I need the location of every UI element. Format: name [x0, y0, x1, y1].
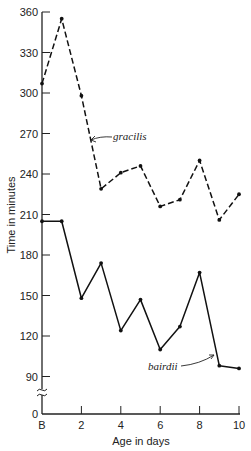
x-tick-label: 2 — [78, 419, 84, 431]
data-point — [158, 348, 162, 352]
data-point — [178, 325, 182, 329]
axes — [37, 12, 240, 414]
y-tick-label: 270 — [20, 128, 38, 140]
data-point — [119, 329, 123, 333]
data-point — [237, 192, 241, 196]
data-point — [139, 298, 143, 302]
y-axis-label: Time in minutes — [5, 176, 17, 254]
data-point — [119, 171, 123, 175]
y-tick-label: 300 — [20, 87, 38, 99]
tick-labels: 090120150180210240270300330360B246810 — [20, 6, 245, 431]
data-point — [80, 296, 84, 300]
y-tick-label: 240 — [20, 168, 38, 180]
x-tick-label: 10 — [233, 419, 245, 431]
data-point — [237, 367, 241, 371]
y-tick-label: 90 — [26, 371, 38, 383]
x-tick-label: B — [38, 419, 45, 431]
data-point — [158, 205, 162, 209]
x-tick-label: 6 — [157, 419, 163, 431]
data-point — [60, 17, 64, 21]
data-point — [198, 159, 202, 163]
data-point — [217, 364, 221, 368]
y-tick-label: 330 — [20, 47, 38, 59]
series-bairdii-path — [42, 221, 239, 368]
y-tick-label: 360 — [20, 6, 38, 18]
series-bairdii-line — [40, 219, 241, 370]
gracilis-label: gracilis — [113, 130, 147, 142]
y-tick-label: 210 — [20, 209, 38, 221]
axis-break-icon — [37, 389, 47, 396]
line-chart: 090120150180210240270300330360B246810 gr… — [0, 0, 251, 451]
y-tick-label: 120 — [20, 330, 38, 342]
series-gracilis-path — [42, 19, 239, 220]
data-point — [80, 94, 84, 98]
data-point — [198, 271, 202, 275]
data-point — [99, 261, 103, 265]
data-point — [40, 82, 44, 86]
bairdii-label: bairdii — [148, 360, 178, 372]
data-point — [178, 198, 182, 202]
x-tick-label: 4 — [118, 419, 124, 431]
data-point — [99, 187, 103, 191]
x-axis-label: Age in days — [112, 435, 170, 447]
bairdii-arrow — [181, 355, 214, 366]
data-point — [60, 219, 64, 223]
series-gracilis-line — [40, 17, 241, 222]
y-tick-label: 150 — [20, 290, 38, 302]
data-point — [40, 219, 44, 223]
y-tick-label: 180 — [20, 249, 38, 261]
x-tick-label: 8 — [197, 419, 203, 431]
data-point — [217, 218, 221, 222]
y-tick-label: 0 — [32, 408, 38, 420]
data-point — [139, 164, 143, 168]
